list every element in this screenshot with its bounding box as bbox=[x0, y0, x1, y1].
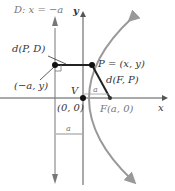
x-axis-label: x bbox=[158, 102, 164, 113]
origin-label: (0, 0) bbox=[57, 102, 84, 113]
leader-foot bbox=[40, 67, 54, 80]
focus-label: F(a, 0) bbox=[99, 103, 134, 114]
foot-point bbox=[52, 62, 58, 68]
dist-fp-label: d(F, P) bbox=[106, 74, 139, 85]
dist-pd-label: d(P, D) bbox=[12, 43, 45, 54]
directrix-label: D: x = −a bbox=[13, 4, 63, 15]
focus-point bbox=[108, 96, 112, 100]
vertex-point bbox=[80, 95, 86, 101]
y-axis-label: y bbox=[72, 5, 80, 16]
a-bottom-label: a bbox=[66, 124, 71, 133]
a-top-label: a bbox=[93, 85, 98, 94]
foot-point-label: (−a, y) bbox=[14, 80, 48, 91]
vertex-label: V bbox=[71, 85, 80, 96]
directrix-arrow-up-icon bbox=[52, 16, 58, 26]
directrix-arrow-down-icon bbox=[52, 174, 58, 184]
point-p bbox=[89, 62, 95, 68]
point-p-label: P = (x, y) bbox=[97, 58, 145, 69]
parabola-diagram: D: x = −a y x d(P, D) P = (x, y) d(F, P)… bbox=[0, 0, 175, 191]
